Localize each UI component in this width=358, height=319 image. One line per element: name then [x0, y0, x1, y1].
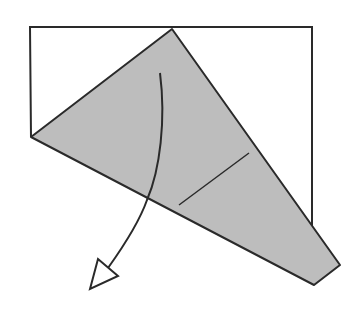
- origami-diagram: [0, 0, 358, 319]
- folded-flap: [31, 29, 340, 285]
- arrowhead-icon: [90, 259, 118, 289]
